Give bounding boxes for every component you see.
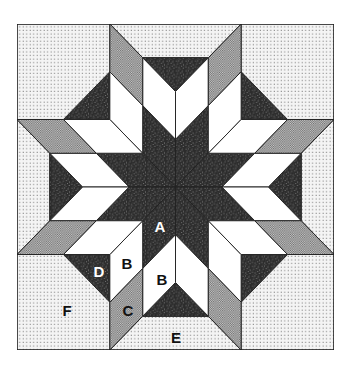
piece-label-e: E xyxy=(171,330,181,345)
piece-label-b: B xyxy=(157,272,168,287)
piece-label-a: A xyxy=(155,219,166,234)
piece-label-c: C xyxy=(123,303,134,318)
piece-label-d: D xyxy=(94,264,105,279)
piece-label-f: F xyxy=(62,303,71,318)
piece-label-b: B xyxy=(122,256,133,271)
